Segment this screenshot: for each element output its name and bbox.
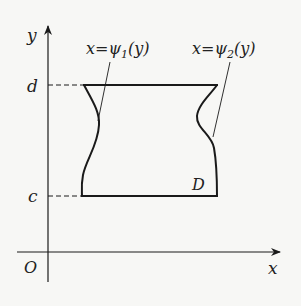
psi2-leader-line — [213, 62, 230, 137]
region-diagram: y x O d c D x=ψ1(y) x=ψ2(y) — [0, 0, 301, 306]
d-label: d — [27, 76, 38, 96]
psi2-label: x=ψ2(y) — [192, 39, 256, 61]
region-d-label: D — [191, 175, 205, 194]
c-label: c — [28, 186, 38, 206]
left-curve-psi1 — [82, 85, 99, 196]
y-axis-label: y — [26, 25, 37, 45]
x-axis-label: x — [268, 258, 278, 278]
psi1-label: x=ψ1(y) — [86, 39, 150, 61]
psi1-leader-line — [98, 62, 110, 121]
origin-label: O — [24, 258, 37, 277]
